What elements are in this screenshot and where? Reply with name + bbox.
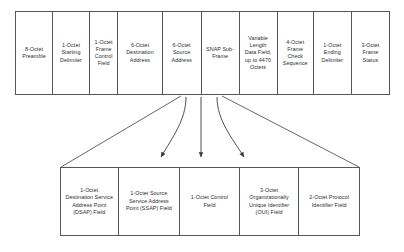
field-source-address: 6-Octet Source Address [163,12,202,94]
field-destination-address: 6-Octet Destination Address [118,12,162,94]
field-ending-delimiter: 1-Octet Ending Delimiter [314,12,352,94]
field-frame-check-sequence-label: 4-Octet Frame Check Sequence [283,39,308,68]
expansion-line-left [61,96,181,167]
snap-field-control-label: 1-Octet Control Field [191,194,228,209]
field-source-address-label: 6-Octet Source Address [172,42,192,64]
snap-arrow-left [161,97,186,157]
field-preamble: 8-Octet Preamble [16,12,53,94]
field-data-label: Variable Length Data Field, up to 4470 O… [245,35,272,71]
field-frame-check-sequence: 4-Octet Frame Check Sequence [278,12,314,94]
field-snap-subframe-label: SNAP Sub- Frame [206,46,234,60]
field-starting-delimiter-label: 1-Octet Starting Delimiter [60,42,82,64]
snap-arrow-right [217,97,244,157]
snap-subframe-fields-row: 1-Octet Destination Service Address Poin… [60,167,360,236]
snap-field-dsap: 1-Octet Destination Service Address Poin… [61,168,119,235]
snap-field-oui-label: 3-Octet Organizationally Unique Identifi… [249,187,289,217]
snap-field-ssap: 1-Octet Source Service Address Point (SS… [119,168,181,235]
field-data: Variable Length Data Field, up to 4470 O… [240,12,278,94]
frame-fields-row: 8-Octet Preamble 1-Octet Starting Delimi… [15,11,390,95]
snap-field-oui: 3-Octet Organizationally Unique Identifi… [240,168,300,235]
field-frame-status: 3-Octet Frame Status [352,12,389,94]
snap-field-protocol-identifier-label: 2-Octet Protocol Identifier Field [309,194,349,209]
expansion-line-right [222,96,359,167]
snap-field-dsap-label: 1-Octet Destination Service Address Poin… [66,187,113,217]
fddi-frame-diagram: 8-Octet Preamble 1-Octet Starting Delimi… [0,0,404,252]
field-ending-delimiter-label: 1-Octet Ending Delimiter [321,42,343,64]
field-preamble-label: 8-Octet Preamble [22,46,45,60]
field-snap-subframe: SNAP Sub- Frame [202,12,240,94]
field-frame-control-label: 1-Octet Frame Control Field [95,39,113,68]
field-frame-status-label: 3-Octet Frame Status [361,42,379,64]
field-destination-address-label: 6-Octet Destination Address [126,42,154,64]
snap-field-ssap-label: 1-Octet Source Service Address Point (SS… [126,190,172,212]
field-frame-control: 1-Octet Frame Control Field [90,12,118,94]
snap-field-control: 1-Octet Control Field [180,168,240,235]
snap-field-protocol-identifier: 2-Octet Protocol Identifier Field [299,168,359,235]
field-starting-delimiter: 1-Octet Starting Delimiter [53,12,90,94]
